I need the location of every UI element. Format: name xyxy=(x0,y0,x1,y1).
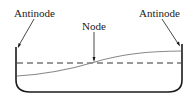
node-label: Node xyxy=(82,21,106,32)
right-antinode-label: Antinode xyxy=(139,8,180,19)
left-antinode-arrow xyxy=(18,19,34,48)
right-antinode-arrow xyxy=(162,19,180,47)
node-arrow xyxy=(93,32,96,62)
seiche-diagram: Antinode Node Antinode xyxy=(0,0,191,101)
left-antinode-label: Antinode xyxy=(14,8,55,19)
